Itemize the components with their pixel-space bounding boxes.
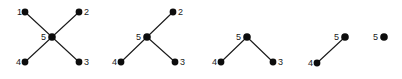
graph-node-label: 5 xyxy=(373,32,378,42)
graph-node xyxy=(170,9,177,16)
graph-node xyxy=(172,59,179,66)
graph-node-label: 5 xyxy=(41,32,46,42)
graph-edge xyxy=(25,37,52,62)
graph-node xyxy=(22,9,29,16)
graph-edge xyxy=(147,12,173,37)
graph-node xyxy=(243,33,251,41)
graph-edge xyxy=(52,37,79,62)
graph-node-label: 2 xyxy=(84,7,89,17)
graph-3-canvas: 543 xyxy=(196,0,296,79)
graph-node-label: 1 xyxy=(17,7,22,17)
graph-node-label: 5 xyxy=(236,32,241,42)
graph-node-label: 2 xyxy=(178,7,183,17)
graph-node xyxy=(270,59,277,66)
graph-node-label: 5 xyxy=(334,32,339,42)
graph-edge xyxy=(147,37,175,62)
graph-node xyxy=(76,59,83,66)
graph-node xyxy=(143,33,151,41)
graph-edge xyxy=(121,37,147,62)
graph-node-label: 4 xyxy=(16,57,21,67)
graph-node xyxy=(76,9,83,16)
graph-node xyxy=(118,59,125,66)
graph-node xyxy=(22,59,29,66)
graph-sequence-figure: 125432543543545 xyxy=(0,0,402,79)
graph-edge xyxy=(25,12,52,37)
graph-edge xyxy=(221,37,247,62)
graph-node-label: 3 xyxy=(84,57,89,67)
single-node-graph: 5 xyxy=(356,0,402,79)
graph-node-label: 4 xyxy=(112,57,117,67)
graph-5-canvas: 5 xyxy=(356,0,402,79)
graph-node xyxy=(380,33,388,41)
graph-node xyxy=(314,60,321,67)
graph-node xyxy=(341,33,349,41)
star-graph-minus-1: 2543 xyxy=(96,0,196,79)
graph-edge xyxy=(52,12,79,37)
graph-1-canvas: 12543 xyxy=(0,0,100,79)
graph-2-canvas: 2543 xyxy=(96,0,196,79)
graph-node-label: 4 xyxy=(308,58,313,68)
graph-node-label: 4 xyxy=(212,57,217,67)
graph-edge xyxy=(247,37,273,62)
graph-edge xyxy=(317,37,345,63)
graph-node-label: 3 xyxy=(278,57,283,67)
star-graph-full: 12543 xyxy=(0,0,100,79)
graph-node xyxy=(48,33,56,41)
graph-node-label: 3 xyxy=(180,57,185,67)
star-graph-minus-1-2: 543 xyxy=(196,0,296,79)
graph-node xyxy=(218,59,225,66)
graph-node-label: 5 xyxy=(136,32,141,42)
